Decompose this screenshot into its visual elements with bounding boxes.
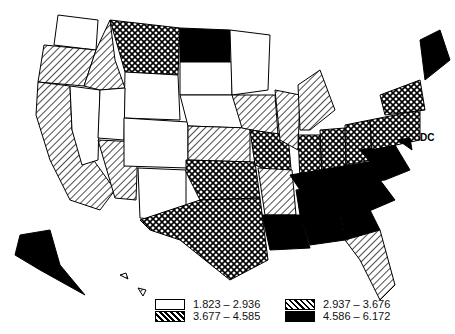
legend-swatch-crosshatch-icon (155, 311, 185, 322)
legend-swatch-white-icon (155, 299, 185, 310)
legend-swatch-black-icon (285, 311, 315, 322)
legend-item-1: 1.823 – 2.936 (155, 298, 260, 310)
legend-item-2: 2.937 – 3.676 (285, 298, 390, 310)
legend-item-4: 4.586 – 6.172 (285, 310, 390, 322)
legend-swatch-hatch-icon (285, 299, 315, 310)
legend-item-3: 3.677 – 4.585 (155, 310, 260, 322)
us-choropleth-map (0, 0, 455, 334)
dc-label: DC (420, 132, 434, 143)
